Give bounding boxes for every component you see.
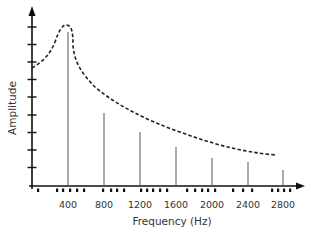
x-minor-mark (166, 189, 168, 193)
x-minor-mark (146, 189, 148, 193)
x-minor-mark (201, 189, 203, 193)
y-axis-title: Amplitude (6, 81, 18, 135)
x-minor-mark (56, 189, 58, 193)
x-minor-mark (116, 189, 118, 193)
x-minor-mark (37, 189, 39, 193)
x-minor-mark (271, 189, 273, 193)
x-tick-label-2000: 2000 (200, 199, 224, 210)
x-minor-mark (194, 189, 196, 193)
x-tick-labels: 40080012001600200024002800 (59, 199, 295, 210)
x-minor-mark (152, 189, 154, 193)
x-minor-mark (140, 189, 142, 193)
x-minor-mark (69, 189, 71, 193)
x-minor-mark (186, 189, 188, 193)
x-minor-mark (76, 189, 78, 193)
x-minor-mark (62, 189, 64, 193)
x-axis-arrow-icon (296, 183, 305, 190)
x-minor-mark (159, 189, 161, 193)
harmonic-stems (68, 32, 283, 186)
envelope-dashed-curve (32, 25, 276, 155)
y-axis (28, 6, 37, 189)
x-minor-mark (83, 189, 85, 193)
x-minor-mark (123, 189, 125, 193)
x-minor-mark (110, 189, 112, 193)
x-minor-mark (232, 189, 234, 193)
x-minor-mark (102, 189, 104, 193)
harmonic-spectrum-chart: 40080012001600200024002800 Frequency (Hz… (0, 0, 311, 233)
x-minor-mark (283, 189, 285, 193)
x-minor-mark (207, 189, 209, 193)
x-tick-label-1200: 1200 (128, 199, 152, 210)
x-axis (29, 183, 305, 193)
x-tick-label-2800: 2800 (271, 199, 295, 210)
x-tick-label-1600: 1600 (164, 199, 188, 210)
x-minor-mark (214, 189, 216, 193)
y-axis-arrow-icon (29, 6, 36, 16)
x-minor-mark (277, 189, 279, 193)
x-tick-label-2400: 2400 (236, 199, 260, 210)
x-minor-mark (251, 189, 253, 193)
x-minor-mark (242, 189, 244, 193)
x-tick-label-400: 400 (59, 199, 77, 210)
x-axis-title: Frequency (Hz) (132, 215, 211, 227)
x-minor-mark (289, 189, 291, 193)
x-tick-label-800: 800 (95, 199, 113, 210)
